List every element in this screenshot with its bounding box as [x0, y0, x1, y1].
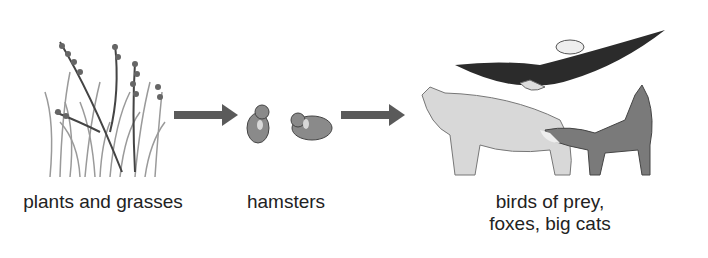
hamsters-label: hamsters: [236, 191, 336, 213]
arrow-hamsters-to-predators: [341, 104, 405, 126]
predators-label-line2: foxes, big cats: [470, 213, 630, 235]
arrow-plants-to-hamsters: [174, 104, 238, 126]
hamsters-illustration: [240, 100, 340, 150]
predators-label: birds of prey, foxes, big cats: [470, 191, 630, 235]
hamster-icon: [240, 100, 340, 150]
arrow-right-icon: [341, 104, 405, 126]
grass-icon: [40, 32, 170, 182]
plants-illustration: [40, 32, 170, 182]
predators-label-line1: birds of prey,: [470, 191, 630, 213]
eagle-icon: [455, 30, 665, 90]
predators-illustration: [410, 25, 670, 180]
plants-label: plants and grasses: [18, 191, 188, 213]
arrow-right-icon: [174, 104, 238, 126]
